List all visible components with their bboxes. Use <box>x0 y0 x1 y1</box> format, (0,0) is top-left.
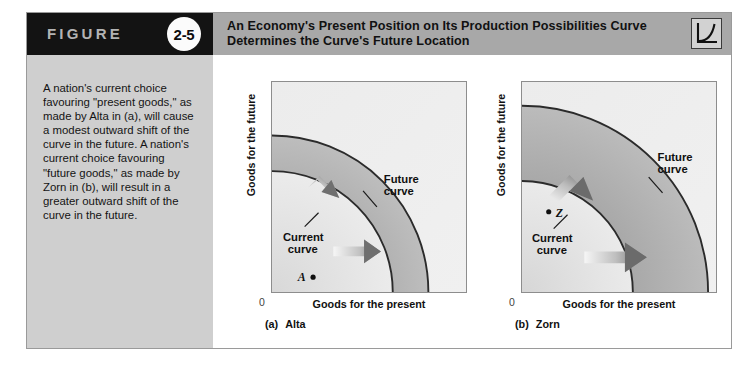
panel-b-name: Zorn <box>536 318 560 330</box>
figure-container: FIGURE 2-5 An Economy's Present Position… <box>26 12 732 349</box>
caption-panel: A nation's current choice favouring "pre… <box>27 55 213 348</box>
panel-caption-a: (a)Alta <box>265 318 306 330</box>
x-axis-label-b: Goods for the present <box>521 298 717 310</box>
figure-number-circle: 2-5 <box>167 17 201 51</box>
svg-text:Future: Future <box>658 151 693 163</box>
svg-text:curve: curve <box>384 185 414 197</box>
figure-title-bar: An Economy's Present Position on Its Pro… <box>213 13 731 55</box>
svg-text:Current: Current <box>532 232 573 244</box>
panel-b-label: (b) <box>515 318 529 330</box>
y-axis-label-b: Goods for the future <box>495 75 507 215</box>
svg-text:Current: Current <box>283 231 324 243</box>
plot-area-b: Future curve Current curve Z <box>521 81 717 293</box>
figure-badge-label: FIGURE <box>47 25 123 42</box>
x-axis-label-a: Goods for the present <box>271 298 467 310</box>
plot-area-a: Future curve Current curve A <box>271 81 467 293</box>
figure-title: An Economy's Present Position on Its Pro… <box>227 19 679 49</box>
figure-number-text: 2-5 <box>174 26 195 43</box>
origin-label-b: 0 <box>509 296 515 308</box>
figure-badge: FIGURE 2-5 <box>27 13 213 55</box>
svg-text:curve: curve <box>658 163 688 175</box>
chart-panel-a: Goods for the future <box>225 55 475 350</box>
panel-caption-b: (b)Zorn <box>515 318 560 330</box>
charts-area: Goods for the future <box>213 55 731 348</box>
svg-text:Z: Z <box>555 206 563 220</box>
y-axis-label-a: Goods for the future <box>245 75 257 215</box>
panel-a-label: (a) <box>265 318 278 330</box>
svg-text:curve: curve <box>537 244 567 256</box>
figure-screenshot: FIGURE 2-5 An Economy's Present Position… <box>0 0 743 367</box>
origin-label-a: 0 <box>259 296 265 308</box>
svg-text:Future: Future <box>384 173 419 185</box>
svg-text:A: A <box>297 270 306 284</box>
figure-caption-text: A nation's current choice favouring "pre… <box>43 81 195 222</box>
panel-a-name: Alta <box>285 318 305 330</box>
chart-panel-b: Goods for the future <box>475 55 725 350</box>
svg-text:curve: curve <box>288 243 318 255</box>
curve-graph-icon <box>691 18 722 49</box>
